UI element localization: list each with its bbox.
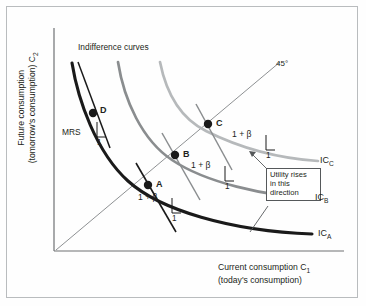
point-label-a: A: [156, 179, 163, 189]
slope-triangle-b: [225, 166, 234, 181]
point-marker-a: [144, 181, 152, 189]
indifference-curve-figure: Future consumption (tomorrow's consumpti…: [0, 0, 366, 306]
y-axis-subscript: 2: [32, 52, 39, 56]
point-marker-c: [204, 120, 212, 128]
utility-callout-line3: direction: [270, 189, 317, 198]
mrs-label: MRS: [62, 128, 81, 137]
x-axis-subscript: 1: [306, 267, 310, 274]
x-axis-title-line2: (today's consumption): [218, 275, 310, 286]
slope-label-b: 1 + β: [191, 161, 211, 171]
slope-label-a: 1 + β: [138, 193, 158, 203]
y-axis-title-line1: Future consumption: [16, 38, 27, 178]
indifference-curve-a: [72, 63, 312, 234]
point-label-c: C: [216, 118, 223, 128]
utility-direction-callout: Utility rises in this direction: [266, 168, 321, 201]
curve-label-ic-a: ICA: [318, 228, 331, 240]
curve-label-ic-c: ICC: [320, 155, 334, 167]
curve-label-ic-b: ICB: [315, 192, 328, 204]
point-label-b: B: [183, 149, 190, 159]
indifference-curve-c: [160, 62, 318, 161]
slope-triangle-c: [266, 135, 275, 150]
indifference-curves-label: Indifference curves: [78, 43, 149, 52]
slope-label-c: 1 + β: [232, 130, 252, 140]
mrs-one-label: 1: [97, 138, 102, 147]
point-label-d: D: [100, 105, 107, 115]
y-axis-title: Future consumption (tomorrow's consumpti…: [16, 38, 40, 178]
point-marker-b: [171, 151, 179, 159]
point-marker-d: [89, 109, 97, 117]
slope-one-b: 1: [225, 182, 230, 191]
slope-one-c: 1: [266, 151, 271, 160]
x-axis-title-line1: Current consumption C1: [218, 262, 310, 275]
x-axis-title: Current consumption C1 (today's consumpt…: [218, 262, 310, 286]
slope-one-a: 1: [172, 214, 177, 223]
y-axis-title-line2: (tomorrow's consumption) C2: [27, 38, 40, 178]
forty-five-degree-label: 45°: [276, 60, 288, 69]
